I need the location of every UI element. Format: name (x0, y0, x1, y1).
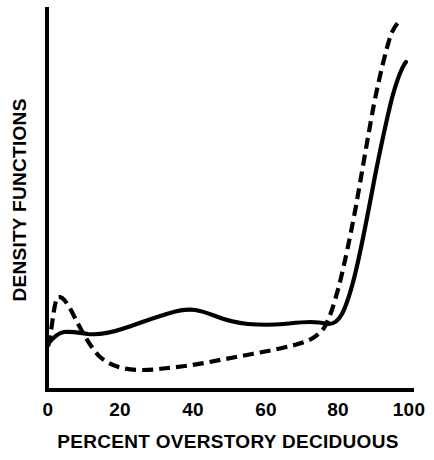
x-tick-label-20: 20 (109, 399, 131, 420)
x-tick-label-100: 100 (393, 399, 425, 420)
density-function-chart: 0 20 40 60 80 100 PERCENT OVERSTORY DECI… (0, 0, 434, 460)
x-tick-label-80: 80 (327, 399, 349, 420)
x-tick-label-40: 40 (182, 399, 204, 420)
x-tick-label-0: 0 (43, 399, 54, 420)
x-axis-title: PERCENT OVERSTORY DECIDUOUS (57, 431, 398, 452)
y-axis-title: DENSITY FUNCTIONS (9, 98, 30, 301)
x-tick-label-60: 60 (255, 399, 277, 420)
